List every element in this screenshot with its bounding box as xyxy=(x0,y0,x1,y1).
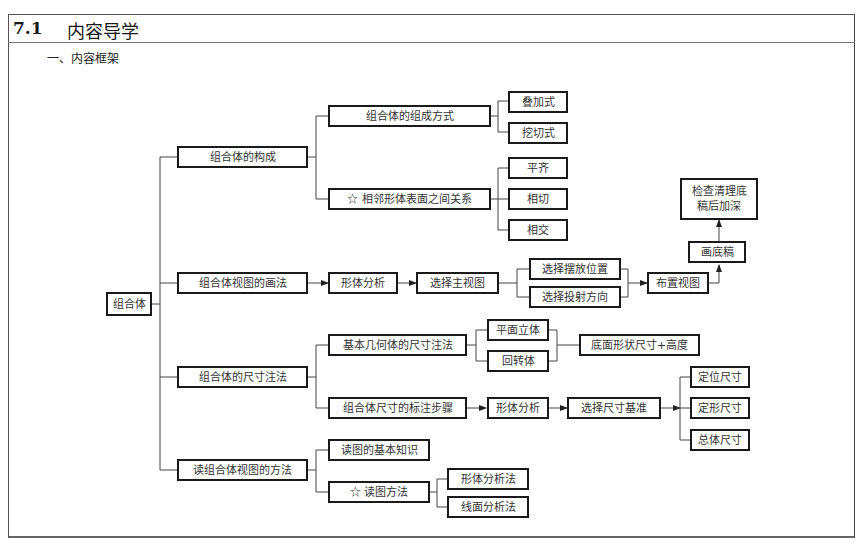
node-flush: 平齐 xyxy=(508,157,568,179)
node-composition: 组合体的构成 xyxy=(177,146,308,168)
node-shape-analysis-method: 形体分析法 xyxy=(447,468,529,490)
node-draft: 画底稿 xyxy=(688,241,746,263)
node-basic-dimension: 基本几何体的尺寸注法 xyxy=(328,334,467,356)
node-base-shape-height: 底面形状尺寸+高度 xyxy=(579,334,700,356)
node-choose-main-view: 选择主视图 xyxy=(416,272,499,294)
node-choose-datum: 选择尺寸基准 xyxy=(567,397,661,419)
node-stacking: 叠加式 xyxy=(508,91,568,113)
node-surface-relations: ☆ 相邻形体表面之间关系 xyxy=(328,188,491,210)
node-finish: 检查清理底稿后加深 xyxy=(680,178,758,220)
node-choose-placement: 选择摆放位置 xyxy=(529,258,621,280)
node-composition-methods: 组合体的组成方式 xyxy=(328,105,491,127)
node-dim-shape-analysis: 形体分析 xyxy=(487,397,549,419)
node-drawing-shape-analysis: 形体分析 xyxy=(328,272,398,294)
node-line-surface-method: 线面分析法 xyxy=(447,496,529,518)
node-reading: 读组合体视图的方法 xyxy=(177,459,308,481)
node-reading-methods: ☆ 读图方法 xyxy=(328,481,430,503)
node-dimensioning: 组合体的尺寸注法 xyxy=(177,366,308,388)
node-reading-knowledge: 读图的基本知识 xyxy=(328,439,430,461)
node-tangent: 相切 xyxy=(508,188,568,210)
node-cutting: 挖切式 xyxy=(508,122,568,144)
node-shape-dim: 定形尺寸 xyxy=(690,397,750,419)
node-overall-dim: 总体尺寸 xyxy=(690,429,750,451)
node-choose-projection: 选择投射方向 xyxy=(529,286,621,308)
node-position-dim: 定位尺寸 xyxy=(690,366,750,388)
node-revolution: 回转体 xyxy=(487,350,549,372)
node-dimension-steps: 组合体尺寸的标注步骤 xyxy=(328,397,467,419)
node-layout-views: 布置视图 xyxy=(647,272,709,294)
node-polyhedron: 平面立体 xyxy=(487,319,549,341)
node-drawing: 组合体视图的画法 xyxy=(177,272,308,294)
node-root: 组合体 xyxy=(106,292,152,316)
node-intersect: 相交 xyxy=(508,219,568,241)
